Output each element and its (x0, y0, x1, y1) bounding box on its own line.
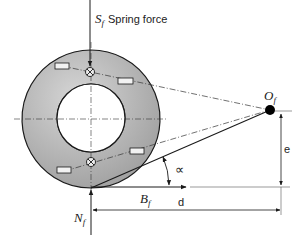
cross-circle-top-icon (86, 68, 95, 77)
pad-bottom-right (130, 148, 144, 154)
pivot-label: Of (264, 88, 277, 105)
dimension-e-label: e (284, 143, 290, 155)
angle-arc (163, 157, 169, 185)
pad-top-right (118, 78, 133, 84)
free-body-diagram: SfSpring force Of Bf ∝ Nf e d (0, 0, 306, 245)
pad-bottom-left (57, 167, 71, 173)
cross-circle-bottom-icon (87, 158, 96, 167)
dimension-d-label: d (178, 196, 184, 208)
spring-force-label: SfSpring force (95, 11, 167, 28)
pivot-point (265, 105, 275, 115)
angle-label: ∝ (175, 162, 184, 177)
pad-top-left (55, 63, 69, 69)
normal-force-label: Nf (73, 210, 87, 227)
brake-force-label: Bf (140, 191, 152, 208)
